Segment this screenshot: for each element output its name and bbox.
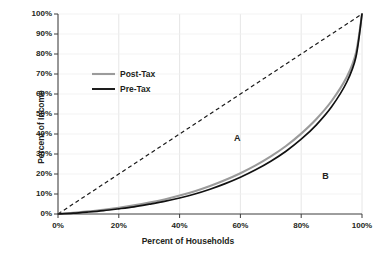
y-tick-label-1: 10% <box>22 190 52 198</box>
legend-swatches <box>92 74 115 89</box>
plot-canvas <box>0 0 376 254</box>
x-tick-label-1: 20% <box>111 222 127 230</box>
area-label-b: B <box>322 171 329 181</box>
legend-label-pre-tax: Pre-Tax <box>120 84 151 94</box>
legend-label-post-tax: Post-Tax <box>120 69 155 79</box>
x-tick-label-2: 40% <box>172 222 188 230</box>
y-tick-label-9: 90% <box>22 30 52 38</box>
x-tick-label-5: 100% <box>352 222 372 230</box>
y-tick-label-7: 70% <box>22 70 52 78</box>
x-tick-label-0: 0% <box>52 222 64 230</box>
x-tick-label-4: 80% <box>293 222 309 230</box>
y-tick-label-2: 20% <box>22 170 52 178</box>
lorenz-curve-chart: 0%10%20%30%40%50%60%70%80%90%100% 0%20%4… <box>0 0 376 254</box>
y-axis-title: Percent of Income <box>36 90 46 164</box>
x-tick-label-3: 60% <box>232 222 248 230</box>
x-axis-title: Percent of Households <box>0 236 376 246</box>
area-label-a: A <box>234 133 241 143</box>
y-tick-label-8: 80% <box>22 50 52 58</box>
y-tick-label-10: 100% <box>22 10 52 18</box>
y-tick-label-0: 0% <box>22 210 52 218</box>
